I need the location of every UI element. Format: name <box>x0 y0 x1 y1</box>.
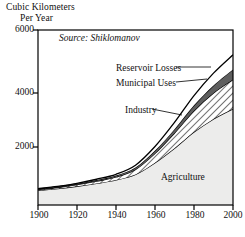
source-annotation: Source: Shiklomanov <box>59 33 140 43</box>
water-use-chart: Cubic Kilometers Per Year 6000 4000 2000… <box>0 0 245 237</box>
label-reservoir-losses: Reservoir Losses <box>116 63 181 73</box>
label-municipal-uses: Municipal Uses <box>116 78 176 88</box>
label-industry: Industry <box>125 105 157 115</box>
label-agriculture: Agriculture <box>161 172 205 182</box>
